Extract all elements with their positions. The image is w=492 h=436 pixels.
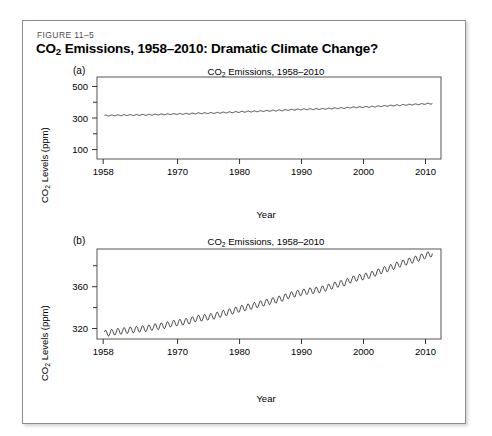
svg-text:1980: 1980 bbox=[229, 166, 250, 177]
svg-text:2010: 2010 bbox=[415, 346, 436, 357]
figure-number: FIGURE 11–5 bbox=[37, 30, 94, 40]
chart-b-y-axis-label: CO2 Levels (ppm) bbox=[39, 305, 50, 381]
svg-text:2010: 2010 bbox=[415, 166, 436, 177]
panel-b-ylabel-rest: Levels (ppm) bbox=[39, 305, 50, 363]
svg-text:1958: 1958 bbox=[93, 166, 114, 177]
panel-a-ylabel-prefix: CO bbox=[39, 189, 50, 203]
figure-title-rest: Emissions, 1958–2010: Dramatic Climate C… bbox=[61, 41, 378, 56]
svg-text:2000: 2000 bbox=[353, 166, 374, 177]
chart-b-plot: 195819701980199020002010320360 bbox=[23, 233, 467, 415]
svg-text:1970: 1970 bbox=[167, 346, 188, 357]
svg-text:300: 300 bbox=[72, 113, 88, 124]
figure-title-subscript: 2 bbox=[56, 46, 61, 57]
chart-a-plot: 195819701980199020002010100300500 bbox=[23, 63, 467, 231]
panel-b-ylabel-prefix: CO bbox=[39, 367, 50, 381]
chart-a-y-axis-label: CO2 Levels (ppm) bbox=[39, 127, 50, 203]
panel-b-xlabel: Year bbox=[214, 393, 275, 404]
panel-a-xlabel: Year bbox=[214, 209, 275, 220]
chart-panel-b: (b) CO2 Emissions, 1958–2010 19581970198… bbox=[23, 233, 467, 415]
svg-text:320: 320 bbox=[72, 323, 88, 334]
svg-text:360: 360 bbox=[72, 281, 88, 292]
svg-text:1970: 1970 bbox=[167, 166, 188, 177]
chart-panel-a: (a) CO2 Emissions, 1958–2010 19581970198… bbox=[23, 63, 467, 231]
panel-a-ylabel-rest: Levels (ppm) bbox=[39, 127, 50, 185]
chart-a-x-axis-label: Year bbox=[23, 209, 467, 220]
panel-a-ylabel-subscript: 2 bbox=[44, 185, 51, 189]
figure-title: CO2 Emissions, 1958–2010: Dramatic Clima… bbox=[36, 41, 378, 56]
svg-text:1958: 1958 bbox=[93, 346, 114, 357]
chart-b-x-axis-label: Year bbox=[23, 393, 467, 404]
figure-title-prefix: CO bbox=[36, 41, 56, 56]
svg-text:100: 100 bbox=[72, 144, 88, 155]
figure-card: FIGURE 11–5 CO2 Emissions, 1958–2010: Dr… bbox=[22, 20, 466, 424]
svg-text:500: 500 bbox=[72, 81, 88, 92]
panel-b-ylabel-subscript: 2 bbox=[44, 363, 51, 367]
svg-text:1980: 1980 bbox=[229, 346, 250, 357]
svg-text:2000: 2000 bbox=[353, 346, 374, 357]
svg-text:1990: 1990 bbox=[291, 346, 312, 357]
svg-text:1990: 1990 bbox=[291, 166, 312, 177]
